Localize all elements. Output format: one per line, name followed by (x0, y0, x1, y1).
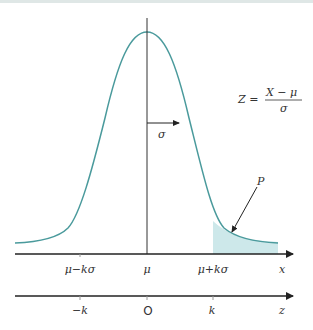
svg-text:σ: σ (280, 102, 288, 115)
z-tick-origin: O (143, 304, 152, 318)
x-axis-var: x (279, 263, 286, 276)
z-tick-k: k (209, 304, 216, 317)
sigma-label: σ (158, 128, 166, 141)
normal-distribution-diagram: σ P Z = X − μ σ μ−kσ μ μ+kσ x −k O k z (0, 0, 313, 330)
z-axis-var: z (278, 304, 285, 317)
svg-text:Z =: Z = (237, 93, 258, 106)
p-label: P (256, 175, 265, 188)
z-formula: Z = X − μ σ (237, 86, 302, 115)
x-tick-mu-plus-ksigma: μ+kσ (198, 263, 229, 276)
x-tick-mu: μ (143, 263, 150, 276)
svg-text:X − μ: X − μ (265, 86, 297, 99)
p-pointer-arrow (232, 187, 257, 232)
x-tick-mu-minus-ksigma: μ−kσ (65, 263, 96, 276)
z-tick-minus-k: −k (72, 304, 88, 317)
